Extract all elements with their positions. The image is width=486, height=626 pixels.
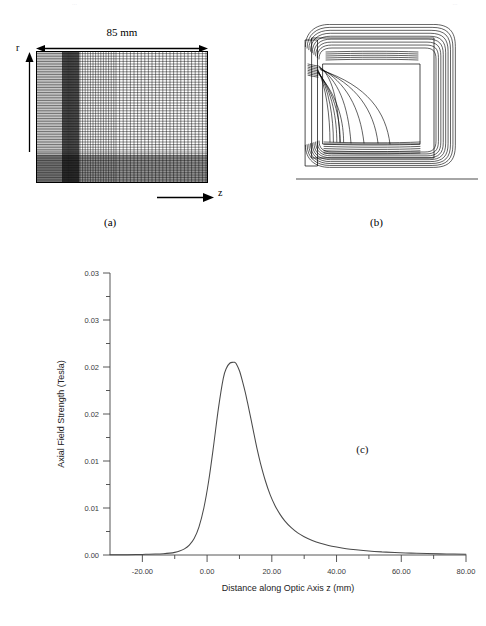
- page-header-artifact-right: …: [453, 1, 459, 6]
- flux-contour-plot: [286, 24, 486, 214]
- panel-c-tag: (c): [356, 443, 369, 456]
- y-tick-label: 0.03: [84, 316, 99, 325]
- y-tick-label: 0.00: [84, 551, 99, 560]
- x-axis-title: Distance along Optic Axis z (mm): [222, 583, 355, 593]
- finite-element-mesh: [36, 51, 208, 183]
- r-axis-arrow: [24, 52, 35, 154]
- x-tick-label: 20.00: [262, 567, 281, 576]
- y-tick-label: 0.02: [84, 363, 99, 372]
- y-tick-label: 0.01: [84, 504, 99, 513]
- y-tick-label: 0.03: [84, 269, 99, 278]
- panel-b-tag: (b): [370, 216, 383, 228]
- panel-a-tag: (a): [104, 216, 116, 228]
- y-axis-title: Axial Field Strength (Tesla): [56, 360, 66, 468]
- x-tick-label: -20.00: [132, 567, 153, 576]
- y-tick-label: 0.01: [84, 457, 99, 466]
- mesh-boundary: [36, 51, 208, 183]
- page-header-artifact-left: …: [72, 1, 78, 6]
- x-tick-label: 0.00: [200, 567, 215, 576]
- axial-field-curve: [110, 362, 466, 555]
- x-tick-label: 80.00: [457, 567, 476, 576]
- z-axis-arrow: [157, 192, 214, 203]
- z-axis-label: z: [218, 187, 222, 198]
- r-axis-label: r: [16, 42, 19, 53]
- x-tick-label: 60.00: [392, 567, 411, 576]
- y-tick-label: 0.02: [84, 410, 99, 419]
- panel-b-flux: (b): [286, 24, 486, 239]
- panel-a-mesh: 85 mm r z (a): [0, 24, 240, 239]
- axial-field-plot: 0.000.010.010.020.020.030.03-20.000.0020…: [46, 255, 486, 610]
- x-tick-label: 40.00: [327, 567, 346, 576]
- figure-page: … … 85 mm r z (a): [0, 0, 486, 626]
- panel-c-axial-field-chart: 0.000.010.010.020.020.030.03-20.000.0020…: [46, 255, 486, 610]
- mesh-dimension-label: 85 mm: [36, 26, 208, 38]
